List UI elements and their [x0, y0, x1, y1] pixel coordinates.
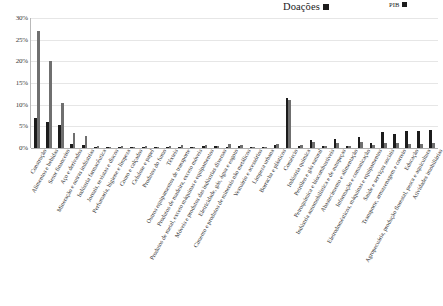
y-axis-tick-label: 5% [19, 122, 31, 130]
bar-group[interactable] [139, 18, 151, 148]
bar-gdp[interactable] [288, 100, 291, 148]
y-axis-tick-label: 30% [16, 14, 31, 22]
bar-group[interactable] [199, 18, 211, 148]
y-axis-tick-label: 10% [16, 101, 31, 109]
bar-group[interactable] [378, 18, 390, 148]
bar-group[interactable] [282, 18, 294, 148]
bar-group[interactable] [67, 18, 79, 148]
bar-group[interactable] [246, 18, 258, 148]
bar-group[interactable] [223, 18, 235, 148]
bar-group[interactable] [426, 18, 438, 148]
bar-group[interactable] [31, 18, 43, 148]
legend-entry-gdp: PIB [389, 1, 407, 8]
bar-group[interactable] [79, 18, 91, 148]
y-axis-tick-label: 20% [16, 57, 31, 65]
bar-group[interactable] [414, 18, 426, 148]
plot-area: 0%5%10%15%20%25%30% [30, 18, 438, 148]
chart-legend: Doações PIB [0, 1, 442, 17]
y-axis-tick-label: 25% [16, 36, 31, 44]
legend-label-gdp: PIB [389, 1, 399, 8]
bar-group[interactable] [366, 18, 378, 148]
bar-group[interactable] [151, 18, 163, 148]
bar-group[interactable] [187, 18, 199, 148]
bar-groups [31, 18, 438, 148]
bar-gdp[interactable] [49, 61, 52, 148]
bar-gdp[interactable] [37, 31, 40, 148]
bar-group[interactable] [234, 18, 246, 148]
bar-group[interactable] [175, 18, 187, 148]
bar-gdp[interactable] [61, 103, 64, 149]
bar-group[interactable] [163, 18, 175, 148]
bar-gdp[interactable] [73, 133, 76, 148]
legend-entry-donations: Doações [283, 1, 329, 12]
bar-group[interactable] [115, 18, 127, 148]
bar-gdp[interactable] [85, 136, 88, 148]
bar-group[interactable] [390, 18, 402, 148]
y-axis-tick-label: 15% [16, 79, 31, 87]
legend-label-donations: Doações [283, 1, 320, 12]
bar-group[interactable] [258, 18, 270, 148]
bar-group[interactable] [306, 18, 318, 148]
bar-group[interactable] [270, 18, 282, 148]
bar-group[interactable] [127, 18, 139, 148]
bar-group[interactable] [330, 18, 342, 148]
bar-group[interactable] [43, 18, 55, 148]
bar-group[interactable] [294, 18, 306, 148]
bar-group[interactable] [342, 18, 354, 148]
legend-swatch-gdp [402, 2, 407, 7]
bar-group[interactable] [402, 18, 414, 148]
bar-group[interactable] [354, 18, 366, 148]
bar-group[interactable] [103, 18, 115, 148]
bar-group[interactable] [91, 18, 103, 148]
bar-group[interactable] [211, 18, 223, 148]
legend-swatch-donations [323, 4, 329, 10]
bar-group[interactable] [318, 18, 330, 148]
x-axis-labels: ConstruçãoAlimentos e bebidasSetor finan… [30, 148, 438, 306]
bar-group[interactable] [55, 18, 67, 148]
